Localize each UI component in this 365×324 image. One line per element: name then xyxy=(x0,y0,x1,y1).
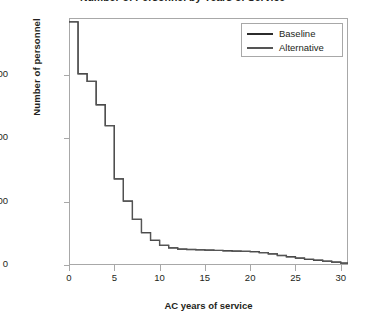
x-tick-label: 10 xyxy=(145,272,175,283)
x-tick-label: 25 xyxy=(280,272,310,283)
x-tick-mark xyxy=(250,265,251,271)
y-tick-label: 20,000 xyxy=(0,131,8,142)
x-tick-mark xyxy=(205,265,206,271)
line-swatch-baseline xyxy=(247,33,273,35)
x-tick-label: 30 xyxy=(326,272,356,283)
x-tick-label: 5 xyxy=(99,272,129,283)
x-tick-label: 15 xyxy=(190,272,220,283)
x-tick-mark xyxy=(295,265,296,271)
series-line-baseline xyxy=(69,22,348,263)
y-tick-label: 10,000 xyxy=(0,195,8,206)
chart-figure: Number of Personnel by Years of Service … xyxy=(0,0,365,324)
x-tick-label: 0 xyxy=(54,272,84,283)
series-line-alternative xyxy=(69,22,348,263)
legend-label-baseline: Baseline xyxy=(279,29,315,39)
legend-label-alternative: Alternative xyxy=(279,43,324,53)
line-swatch-alternative xyxy=(247,47,273,49)
x-tick-mark xyxy=(69,265,70,271)
legend-item-baseline: Baseline xyxy=(247,27,338,41)
y-axis-label: Number of personnel xyxy=(31,0,45,157)
x-tick-mark xyxy=(341,265,342,271)
y-tick-label: 0 xyxy=(0,258,8,269)
x-tick-label: 20 xyxy=(235,272,265,283)
x-axis-label: AC years of service xyxy=(69,300,348,311)
chart-title: Number of Personnel by Years of Service xyxy=(0,0,365,3)
y-tick-label: 30,000 xyxy=(0,68,8,79)
legend-item-alternative: Alternative xyxy=(247,41,338,55)
chart-legend: Baseline Alternative xyxy=(241,23,343,57)
x-tick-mark xyxy=(114,265,115,271)
x-tick-mark xyxy=(160,265,161,271)
chart-title-clipped: Number of Personnel by Years of Service xyxy=(0,0,365,7)
